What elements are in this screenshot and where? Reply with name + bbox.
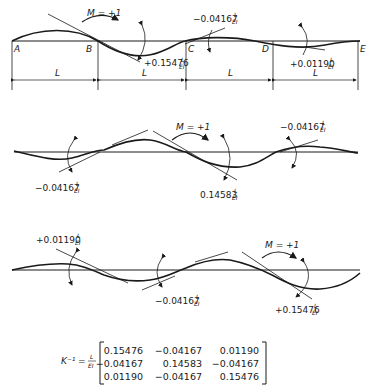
panel-2-unit-moment-at-c: M = +1 −0.04167 L EI 0.14583 L EI −0.041… [14,119,358,201]
moment-label: M = +1 [265,240,299,250]
moment-arrow-icon [262,252,296,258]
tangent-line [305,47,325,50]
rotation-arc-icon [138,25,145,60]
panel-1-unit-moment-at-b: L L L L A B C D E M = +1 +0.15476 L EI −… [0,0,366,90]
unit-num: L [77,232,80,239]
rotation-arc-icon [224,138,230,180]
unit-num: L [322,119,325,126]
moment-label: M = +1 [87,8,121,18]
unit-num: L [234,11,237,18]
node-label-c: C [188,44,195,54]
rotation-arc-icon [290,140,297,168]
right-bracket [262,342,266,384]
matrix-cell: 0.01190 [220,345,259,356]
node-label-e: E [360,44,366,54]
unit-den: EI [328,63,334,70]
moment-arrow-icon [172,133,208,140]
node-label-b: B [86,44,92,54]
span-label: L [55,68,60,78]
unit-den: EI [74,187,80,194]
unit-den: EI [232,194,238,201]
rotation-arc-icon [296,262,309,297]
unit-den: EI [75,239,81,246]
span-label: L [142,68,147,78]
tangent-line [56,249,128,283]
deflected-shape [12,259,360,289]
node-label-a: A [13,44,20,54]
flexibility-matrix: K⁻¹ = L EI 0.15476 −0.04167 0.01190 −0.0… [61,342,266,384]
unit-den: EI [179,63,185,70]
panel-3-unit-moment-at-d: M = +1 +0.01190 L EI −0.04167 L EI +0.15… [12,232,360,316]
span-label: L [313,68,318,78]
unit-num: L [76,180,79,187]
matrix-factor-num: L [90,353,93,360]
tangent-line [48,14,140,62]
rotation-arc-icon [157,258,162,287]
tangent-line [112,130,148,145]
node-label-d: D [262,44,269,54]
span-label: L [228,68,233,78]
rotation-arc-icon [69,252,76,285]
unit-num: L [234,187,237,194]
matrix-cell: 0.01190 [104,371,143,382]
matrix-cell: −0.04167 [155,345,202,356]
unit-den: EI [194,300,200,307]
tangent-line [59,152,100,172]
unit-num: L [196,293,199,300]
tangent-line [185,28,225,44]
matrix-factor-den: EI [88,362,94,369]
matrix-cell: 0.15476 [220,371,259,382]
matrix-cell: −0.04167 [96,358,143,369]
matrix-lhs: K⁻¹ = [61,356,86,366]
unit-num: L [314,302,317,309]
matrix-cell: −0.04167 [155,371,202,382]
matrix-cell: 0.15476 [104,345,143,356]
unit-den: EI [312,309,318,316]
matrix-cell: −0.04167 [212,358,259,369]
unit-num: L [181,56,184,63]
unit-num: L [330,56,333,63]
flexibility-diagram: L L L L A B C D E M = +1 +0.15476 L EI −… [0,0,372,392]
unit-den: EI [320,126,326,133]
unit-den: EI [232,18,238,25]
rotation-value: −0.04167 [280,122,325,132]
matrix-cell: 0.14583 [163,358,202,369]
moment-label: M = +1 [176,122,210,132]
